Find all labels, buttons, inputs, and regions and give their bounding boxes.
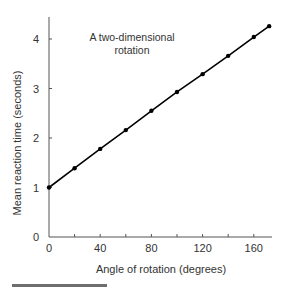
- annotation-line-2: rotation: [114, 44, 149, 56]
- data-point: [226, 54, 230, 58]
- data-point: [47, 185, 51, 189]
- x-axis-title: Angle of rotation (degrees): [96, 263, 226, 275]
- data-point: [267, 24, 271, 28]
- y-tick-label: 0: [33, 231, 39, 243]
- y-tick-label: 4: [33, 33, 39, 45]
- line-chart: 04080120160 01234 A two-dimensional rota…: [0, 0, 287, 289]
- data-point: [72, 166, 76, 170]
- y-tick-labels: 01234: [33, 33, 39, 243]
- y-tick-label: 2: [33, 132, 39, 144]
- y-tick-label: 3: [33, 83, 39, 95]
- x-tick-label: 0: [46, 242, 52, 254]
- bottom-divider-bar: [12, 284, 107, 287]
- x-tick-label: 40: [94, 242, 106, 254]
- y-axis-title: Mean reaction time (seconds): [11, 71, 23, 216]
- series-line: [49, 26, 269, 187]
- data-point: [252, 35, 256, 39]
- data-point: [98, 147, 102, 151]
- y-tick-label: 1: [33, 182, 39, 194]
- annotation-line-1: A two-dimensional: [89, 31, 174, 43]
- x-tick-label: 80: [145, 242, 157, 254]
- x-tick-label: 120: [193, 242, 211, 254]
- x-tick-labels: 04080120160: [46, 242, 263, 254]
- axes: [49, 17, 272, 237]
- x-tick-label: 160: [245, 242, 263, 254]
- tick-marks: [49, 39, 254, 237]
- data-series: [47, 24, 272, 190]
- data-point: [149, 109, 153, 113]
- data-point: [175, 90, 179, 94]
- data-point: [124, 128, 128, 132]
- data-point: [200, 72, 204, 76]
